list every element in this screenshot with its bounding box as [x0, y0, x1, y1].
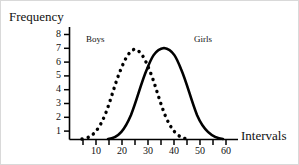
y-tick-label: 3 — [49, 98, 61, 108]
series-curve-girls — [108, 48, 223, 139]
y-tick-label: 6 — [49, 57, 61, 67]
y-tick-label: 8 — [49, 29, 61, 39]
y-tick-label: 2 — [49, 112, 61, 122]
y-tick-label: 4 — [49, 84, 61, 94]
y-tick-label: 1 — [49, 126, 61, 136]
x-axis-title: Intervals — [241, 129, 286, 142]
x-tick-label: 30 — [138, 146, 158, 156]
series-curve-boys — [82, 49, 188, 139]
y-tick-label: 7 — [49, 43, 61, 53]
y-axis-title: Frequency — [9, 10, 64, 23]
series-label-girls: Girls — [194, 35, 212, 44]
x-tick-label: 40 — [164, 146, 184, 156]
x-tick-label: 60 — [216, 146, 236, 156]
y-axis-ticks — [64, 35, 70, 132]
x-tick-label: 10 — [86, 146, 106, 156]
chart-figure: Frequency Intervals Boys Girls 8 7 6 5 4… — [0, 0, 299, 165]
series-label-boys: Boys — [86, 35, 105, 44]
y-tick-label: 5 — [49, 70, 61, 80]
x-tick-label: 20 — [112, 146, 132, 156]
x-tick-label: 50 — [190, 146, 210, 156]
